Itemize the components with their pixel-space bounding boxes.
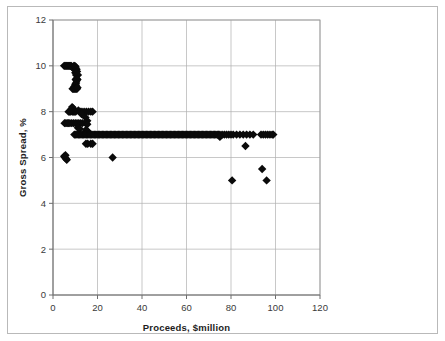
plot-container: 024681012020406080100120Proceeds, $milli… [0, 0, 445, 341]
x-tick-label: 60 [181, 302, 192, 313]
y-tick-label: 10 [35, 60, 46, 71]
y-axis-title: Gross Spread, % [17, 118, 28, 197]
x-tick-label: 0 [50, 302, 55, 313]
scatter-chart: 024681012020406080100120Proceeds, $milli… [0, 0, 445, 341]
x-tick-label: 100 [268, 302, 284, 313]
y-tick-label: 6 [41, 152, 46, 163]
y-tick-label: 0 [41, 289, 46, 300]
y-tick-label: 12 [35, 14, 46, 25]
y-tick-label: 4 [41, 198, 46, 209]
x-axis-title: Proceeds, $million [143, 322, 231, 333]
x-tick-label: 40 [137, 302, 148, 313]
x-tick-label: 80 [226, 302, 237, 313]
x-tick-label: 120 [312, 302, 328, 313]
y-tick-label: 8 [41, 106, 46, 117]
y-tick-label: 2 [41, 244, 46, 255]
chart-figure: 024681012020406080100120Proceeds, $milli… [0, 0, 445, 341]
x-tick-label: 20 [92, 302, 103, 313]
